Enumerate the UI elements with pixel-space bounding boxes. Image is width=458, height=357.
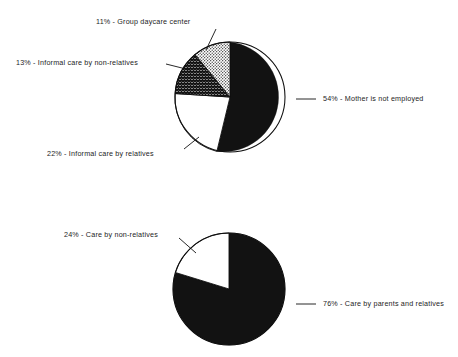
pie1-label-informal-care-non-relatives: 13% - Informal care by non-relatives [16, 58, 138, 67]
pie-chart-figure: 11% - Group daycare center 13% - Informa… [0, 0, 458, 357]
pie2-label-care-by-parents-and-relatives: 76% - Care by parents and relatives [323, 299, 444, 308]
pie1-label-informal-care-relatives: 22% - Informal care by relatives [47, 149, 154, 158]
pie1-label-group-daycare-center: 11% - Group daycare center [96, 17, 191, 26]
pie2-label-care-by-non-relatives: 24% - Care by non-relatives [64, 230, 158, 239]
pie1-label-mother-not-employed: 54% - Mother is not employed [323, 94, 424, 103]
charts-svg-canvas: 11% - Group daycare center 13% - Informa… [0, 0, 458, 357]
